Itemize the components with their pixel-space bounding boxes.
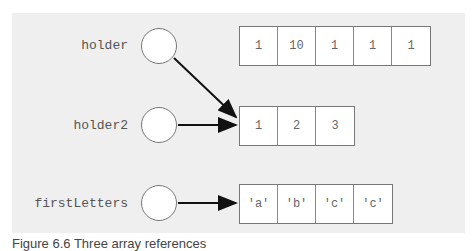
array-cell: 1 (354, 27, 392, 65)
array-cell: 1 (392, 27, 430, 65)
arrow-holder (174, 58, 236, 117)
array-firstLetters: 'a' 'b' 'c' 'c' (239, 184, 393, 224)
array-cell: 1 (240, 27, 278, 65)
array-cell: 1 (316, 27, 354, 65)
array-cell: 'c' (316, 185, 354, 223)
array-holder: 1 10 1 1 1 (239, 26, 431, 66)
reference-circle-firstLetters (141, 185, 177, 221)
array-cell: 'c' (354, 185, 392, 223)
array-holder2: 1 2 3 (239, 106, 355, 146)
figure-caption: Figure 6.6 Three array references (12, 236, 206, 251)
array-cell: 'a' (240, 185, 278, 223)
variable-label-holder: holder (40, 38, 128, 53)
array-cell: 3 (316, 107, 354, 145)
variable-label-holder2: holder2 (40, 118, 128, 133)
array-cell: 10 (278, 27, 316, 65)
array-cell: 2 (278, 107, 316, 145)
array-cell: 1 (240, 107, 278, 145)
reference-circle-holder2 (141, 107, 177, 143)
variable-label-firstLetters: firstLetters (20, 196, 128, 211)
reference-circle-holder (141, 28, 177, 64)
array-cell: 'b' (278, 185, 316, 223)
